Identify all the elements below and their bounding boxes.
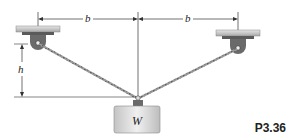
height-dimension: h bbox=[14, 44, 134, 97]
mechanics-diagram: b b h bbox=[0, 0, 294, 139]
weight-block: W bbox=[114, 96, 160, 133]
left-cable bbox=[39, 44, 137, 98]
span-dimension: b b bbox=[38, 12, 238, 104]
label-h: h bbox=[18, 63, 24, 75]
label-b-left: b bbox=[85, 12, 91, 24]
diagram-figure: b b h bbox=[0, 0, 294, 139]
right-cable bbox=[139, 49, 237, 98]
label-b-right: b bbox=[185, 12, 191, 24]
figure-number: P3.36 bbox=[255, 121, 286, 135]
right-support bbox=[216, 30, 260, 54]
label-w: W bbox=[132, 114, 143, 128]
junction-ring bbox=[136, 96, 140, 100]
